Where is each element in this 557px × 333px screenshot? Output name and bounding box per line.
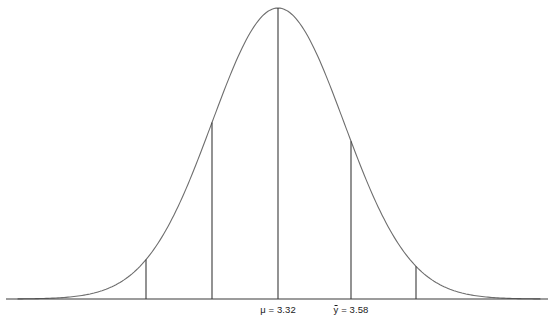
- y-bar-symbol: y: [334, 304, 339, 315]
- normal-distribution-figure: μ = 3.32 y = 3.58: [0, 0, 557, 333]
- sample-mean-value-text: = 3.58: [338, 304, 368, 315]
- mean-label: μ = 3.32: [260, 304, 296, 315]
- bell-curve-path: [18, 8, 540, 299]
- marker-lines-group: [146, 8, 416, 299]
- distribution-plot: [0, 0, 557, 333]
- sample-mean-label: y = 3.58: [334, 304, 369, 315]
- curve-group: [18, 8, 540, 299]
